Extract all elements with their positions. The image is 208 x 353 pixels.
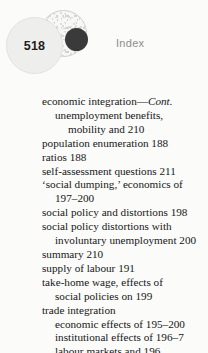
index-entry: trade integration (42, 304, 204, 318)
index-entry: institutional effects of 196–7 (42, 331, 204, 345)
index-entry: labour markets and 196 (42, 345, 204, 353)
index-entry: summary 210 (42, 248, 204, 262)
index-entry: supply of labour 191 (42, 262, 204, 276)
index-entry: self-assessment questions 211 (42, 165, 204, 179)
index-entry: social policies on 199 (42, 290, 204, 304)
index-entry: social policy distortions with (42, 220, 204, 234)
index-entry: involuntary unemployment 200 (42, 234, 204, 248)
index-entry: take-home wage, effects of (42, 276, 204, 290)
dark-circle-decoration (65, 28, 88, 51)
index-entry: mobility and 210 (42, 123, 204, 137)
index-entry-continuation: Cont. (148, 95, 173, 107)
index-entry: population enumeration 188 (42, 137, 204, 151)
header-title: Index (116, 37, 144, 49)
index-entry: economic effects of 195–200 (42, 318, 204, 332)
index-entry: ratios 188 (42, 151, 204, 165)
page-header: 518 Index (0, 0, 208, 88)
index-entry: ‘social dumping,’ economics of (42, 178, 204, 192)
index-entry: social policy and distortions 198 (42, 206, 204, 220)
index-page: 518 Index economic integration—Cont.unem… (0, 0, 208, 353)
index-entry-list: economic integration—Cont.unemployment b… (42, 95, 204, 353)
page-number: 518 (6, 17, 63, 74)
index-entry: unemployment benefits, (42, 109, 204, 123)
index-entry: economic integration—Cont. (42, 95, 204, 109)
index-entry: 197–200 (42, 192, 204, 206)
